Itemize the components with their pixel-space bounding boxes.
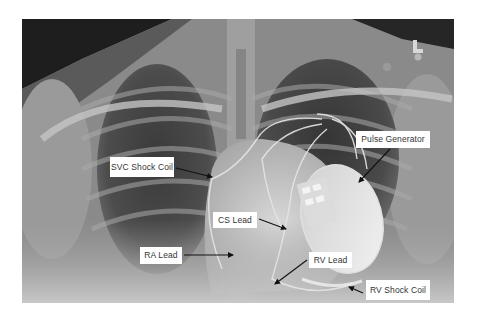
label-rv-lead: RV Lead (309, 252, 352, 268)
label-rv-shock-coil: RV Shock Coil (366, 280, 430, 300)
chest-xray-image (22, 19, 454, 303)
label-svc-shock-coil: SVC Shock Coil (110, 157, 174, 177)
label-ra-lead: RA Lead (140, 247, 182, 264)
label-pulse-generator: Pulse Generator (356, 131, 430, 148)
label-cs-lead: CS Lead (213, 212, 257, 228)
